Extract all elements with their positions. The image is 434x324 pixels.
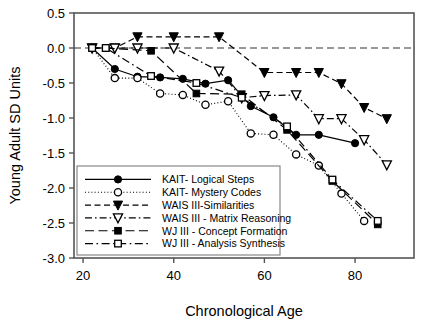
- y-tick-label: -1.5: [43, 146, 65, 161]
- y-tick-label: -1.0: [43, 111, 65, 126]
- legend-item-label-4: WJ III - Concept Formation: [162, 225, 288, 237]
- marker-open-circle: [179, 91, 186, 98]
- marker-open-square: [193, 80, 200, 87]
- marker-open-square: [238, 94, 245, 101]
- marker-filled-circle: [111, 65, 118, 72]
- marker-open-square: [284, 123, 291, 130]
- marker-open-circle: [338, 190, 345, 197]
- marker-open-square: [329, 176, 336, 183]
- marker-open-circle: [225, 98, 232, 105]
- marker-filled-circle: [114, 176, 121, 183]
- marker-open-square: [102, 45, 109, 52]
- marker-open-circle: [270, 131, 277, 138]
- legend-item-label-1: KAIT- Mystery Codes: [162, 186, 261, 198]
- marker-open-circle: [134, 75, 141, 82]
- marker-open-square: [89, 45, 96, 52]
- marker-open-circle: [202, 101, 209, 108]
- y-tick-label: 0.5: [47, 6, 65, 21]
- marker-open-circle: [114, 189, 121, 196]
- marker-filled-square: [115, 227, 122, 234]
- legend: KAIT- Logical StepsKAIT- Mystery CodesWA…: [77, 166, 291, 255]
- marker-open-circle: [111, 75, 118, 82]
- y-axis-title: Young Adult SD Units: [7, 66, 23, 204]
- legend-item-label-3: WAIS III - Matrix Reasoning: [162, 212, 291, 224]
- marker-open-circle: [293, 151, 300, 158]
- legend-item-label-5: WJ III - Analysis Synthesis: [162, 237, 285, 249]
- marker-filled-circle: [351, 140, 358, 147]
- marker-open-circle: [247, 130, 254, 137]
- legend-item-label-0: KAIT- Logical Steps: [162, 173, 254, 185]
- x-axis-title: Chronological Age: [185, 303, 303, 319]
- x-tick-label: 60: [257, 268, 271, 283]
- line-chart: 0.50.0-0.5-1.0-1.5-2.0-2.5-3.020406080Ch…: [0, 0, 434, 324]
- marker-open-square: [148, 73, 155, 80]
- legend-item-label-2: WAIS III-Similarities: [162, 199, 254, 211]
- y-tick-label: -0.5: [43, 76, 65, 91]
- marker-filled-square: [193, 90, 200, 97]
- x-tick-label: 20: [76, 268, 90, 283]
- y-tick-label: -2.0: [43, 181, 65, 196]
- chart-figure: 0.50.0-0.5-1.0-1.5-2.0-2.5-3.020406080Ch…: [0, 0, 434, 324]
- marker-filled-square: [148, 48, 155, 55]
- x-tick-label: 80: [348, 268, 362, 283]
- marker-open-square: [374, 218, 381, 225]
- marker-open-square: [115, 240, 122, 247]
- x-tick-label: 40: [166, 268, 180, 283]
- y-tick-label: 0.0: [47, 41, 65, 56]
- marker-open-circle: [157, 90, 164, 97]
- marker-filled-circle: [315, 131, 322, 138]
- y-tick-label: -2.5: [43, 216, 65, 231]
- y-tick-label: -3.0: [43, 251, 65, 266]
- marker-open-circle: [361, 217, 368, 224]
- marker-filled-circle: [225, 77, 232, 84]
